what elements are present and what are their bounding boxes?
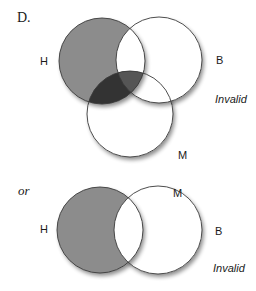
- label-b-bottom: B: [215, 226, 222, 237]
- figure-heading: D.: [17, 11, 31, 25]
- label-h-bottom: H: [40, 224, 48, 235]
- label-b-top: B: [216, 55, 223, 66]
- verdict-top: Invalid: [215, 94, 247, 105]
- label-m-top: M: [178, 150, 187, 161]
- venn-figure: [0, 0, 256, 291]
- label-m-bottom: M: [173, 188, 182, 199]
- venn-top: [59, 17, 202, 157]
- verdict-bottom: Invalid: [213, 263, 245, 274]
- label-h-top: H: [40, 56, 48, 67]
- separator-or: or: [18, 184, 30, 197]
- venn-bottom: [57, 186, 202, 274]
